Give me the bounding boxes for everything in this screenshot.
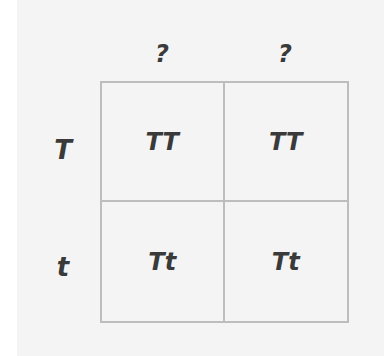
column-header-1: ?	[132, 42, 192, 66]
cell-r1-c2: TT	[225, 83, 348, 202]
row-header-2: t	[43, 254, 83, 280]
punnett-grid: TT TT Tt Tt	[100, 81, 349, 323]
cell-r2-c2: Tt	[225, 202, 348, 321]
column-header-2: ?	[255, 42, 315, 66]
row-header-1: T	[43, 137, 83, 163]
cell-r2-c1: Tt	[102, 202, 225, 321]
cell-r1-c1: TT	[102, 83, 225, 202]
